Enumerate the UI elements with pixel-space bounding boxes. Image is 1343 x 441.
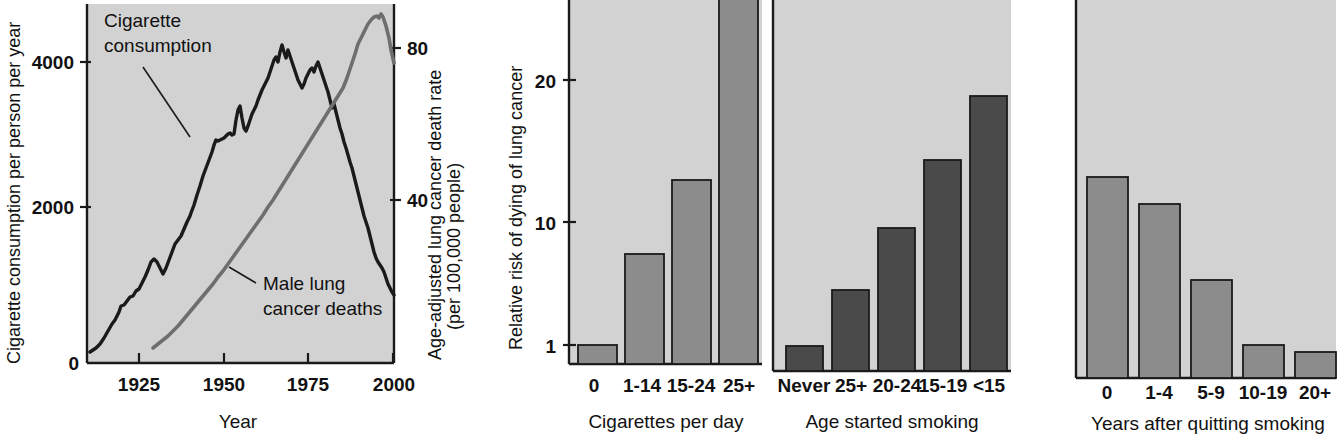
- panel-cigarettes-per-day: Relative risk of dying of lung cancer 20…: [490, 0, 780, 441]
- ytick-label-4000: 4000: [32, 52, 74, 73]
- ytick-label-20: 20: [535, 71, 556, 92]
- xaxis-title-cigarettes-per-day: Cigarettes per day: [588, 411, 744, 432]
- xcat-label-never: Never: [778, 375, 831, 396]
- bar-20-24: [878, 228, 915, 371]
- xcat-label-under15: <15: [973, 375, 1006, 396]
- multi-panel-smoking-figure: 4000 2000 0 80 40 1925 1950 1975 2000 Ye…: [0, 0, 1343, 441]
- xcat-label-25plus: 25+: [835, 375, 867, 396]
- annotation-male-lung-cancer-l2: cancer deaths: [263, 298, 382, 319]
- yaxis-title-cigarette-consumption: Cigarette consumption per person per yea…: [4, 22, 24, 364]
- bar-1-4: [1139, 204, 1180, 378]
- bar-under15: [970, 96, 1007, 371]
- xcat-label-10-19: 10-19: [1239, 382, 1288, 403]
- xcat-label-1-4: 1-4: [1145, 382, 1173, 403]
- bar-never: [786, 346, 823, 371]
- xcat-label-15-19: 15-19: [919, 375, 968, 396]
- xcat-label-20-24: 20-24: [873, 375, 922, 396]
- bar-25plus: [832, 290, 869, 371]
- ytick-label-1: 1: [545, 336, 556, 357]
- bar-15-24: [672, 180, 711, 364]
- annotation-cigarette-consumption-l2: consumption: [104, 35, 212, 56]
- panel-age-started-smoking: Never 25+ 20-24 15-19 <15 Age started sm…: [762, 0, 1052, 441]
- xcat-label-15-24: 15-24: [667, 375, 716, 396]
- xcat-label-0: 0: [589, 375, 600, 396]
- xtick-label-1975: 1975: [287, 374, 330, 395]
- xaxis-title-year: Year: [219, 411, 258, 432]
- xaxis-title-years-after-quitting: Years after quitting smoking: [1091, 413, 1325, 434]
- xaxis-title-age-started-smoking: Age started smoking: [805, 411, 978, 432]
- yaxis-title-relative-risk: Relative risk of dying of lung cancer: [506, 66, 526, 350]
- panel-cigarette-consumption-vs-lung-cancer: 4000 2000 0 80 40 1925 1950 1975 2000 Ye…: [0, 0, 452, 441]
- bar-1-14: [625, 254, 664, 364]
- xcat-label-5-9: 5-9: [1197, 382, 1224, 403]
- ytick-label-2000: 2000: [32, 197, 74, 218]
- bar-10-19: [1243, 345, 1284, 378]
- bar-15-19: [924, 160, 961, 371]
- bar-25plus: [719, 0, 758, 364]
- bar-20plus: [1295, 352, 1336, 378]
- xtick-label-2000: 2000: [373, 374, 415, 395]
- yaxis-right-sublabel: (per 100,000 people): [444, 163, 464, 330]
- bar-0: [1087, 177, 1128, 378]
- annotation-cigarette-consumption-l1: Cigarette: [104, 10, 181, 31]
- bar-0: [578, 345, 617, 364]
- xcat-label-20plus: 20+: [1299, 382, 1331, 403]
- xcat-label-25plus: 25+: [723, 375, 755, 396]
- xtick-label-1950: 1950: [203, 374, 245, 395]
- panel-years-after-quitting-smoking: 0 1-4 5-9 10-19 20+ Years after quitting…: [1053, 0, 1343, 441]
- xcat-label-0: 0: [1102, 382, 1113, 403]
- xtick-label-1925: 1925: [118, 374, 161, 395]
- xcat-label-1-14: 1-14: [623, 375, 661, 396]
- ytick-label-10: 10: [535, 213, 556, 234]
- panel1-right-axis-sublabel-wrap: (per 100,000 people): [430, 0, 490, 441]
- ytick-right-label-80: 80: [407, 38, 428, 59]
- annotation-male-lung-cancer-l1: Male lung: [263, 273, 345, 294]
- ytick-label-0: 0: [68, 353, 79, 374]
- bar-5-9: [1191, 280, 1232, 378]
